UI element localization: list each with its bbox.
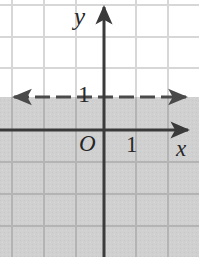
y-axis-label: y	[74, 4, 85, 29]
x-axis-tick-label-1: 1	[126, 133, 138, 156]
coordinate-plane-svg	[0, 0, 199, 257]
coordinate-plane-figure: y x O 1 1	[0, 0, 199, 257]
origin-label: O	[79, 132, 96, 155]
x-axis-label: x	[176, 137, 186, 160]
y-axis-tick-label-1: 1	[78, 82, 90, 106]
shaded-region-y-le-1	[0, 97, 199, 257]
